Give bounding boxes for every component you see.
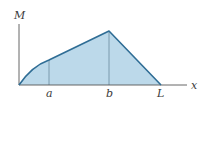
y-axis-label: M — [13, 9, 26, 22]
point-label-b: b — [106, 87, 113, 100]
x-axis-label: x — [191, 79, 198, 92]
moment-area — [19, 31, 161, 85]
moment-diagram: M x a b L — [0, 0, 207, 147]
point-label-L: L — [156, 87, 164, 100]
point-label-a: a — [46, 87, 53, 100]
